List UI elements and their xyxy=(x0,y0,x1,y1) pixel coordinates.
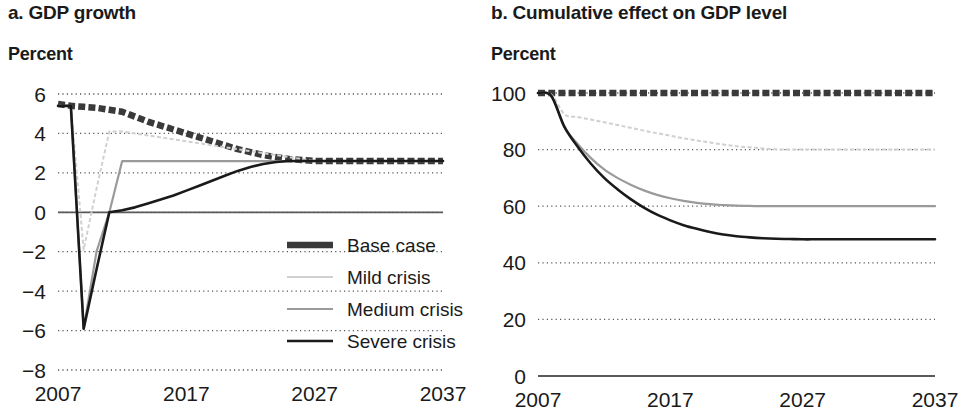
x-axis-tick-label: 2017 xyxy=(647,388,694,411)
x-axis-tick-label: 2027 xyxy=(779,388,826,411)
legend-label: Severe crisis xyxy=(347,331,456,352)
panel-gdp-growth: a. GDP growth Percent 6420−2−4−6−8200720… xyxy=(0,0,483,417)
y-axis-tick-label: 20 xyxy=(503,308,526,331)
panel-b-plot: 1008060402002007201720272037 xyxy=(483,0,967,417)
legend-label: Medium crisis xyxy=(347,299,463,320)
y-axis-tick-label: −6 xyxy=(22,319,46,342)
x-axis-tick-label: 2007 xyxy=(35,382,82,405)
y-axis-tick-label: 0 xyxy=(34,201,46,224)
y-axis-tick-label: 2 xyxy=(34,161,46,184)
legend-item-mild-crisis: Mild crisis xyxy=(287,267,430,288)
y-axis-tick-label: 4 xyxy=(34,122,46,145)
panel-cumulative-gdp-level: b. Cumulative effect on GDP level Percen… xyxy=(483,0,967,417)
legend-item-medium-crisis: Medium crisis xyxy=(287,299,463,320)
x-axis-tick-label: 2007 xyxy=(515,388,562,411)
two-panel-line-chart-figure: a. GDP growth Percent 6420−2−4−6−8200720… xyxy=(0,0,967,417)
legend-item-severe-crisis: Severe crisis xyxy=(287,331,456,352)
y-axis-tick-label: −4 xyxy=(22,280,46,303)
y-axis-tick-label: 80 xyxy=(503,138,526,161)
legend-item-base-case: Base case xyxy=(287,235,436,256)
legend-label: Mild crisis xyxy=(347,267,430,288)
y-axis-tick-label: 60 xyxy=(503,195,526,218)
x-axis-tick-label: 2037 xyxy=(420,382,467,405)
series-line-medium-crisis xyxy=(58,106,443,329)
y-axis-tick-label: 6 xyxy=(34,83,46,106)
y-axis-tick-label: 0 xyxy=(514,365,526,388)
y-axis-tick-label: 100 xyxy=(491,82,526,105)
x-axis-tick-label: 2017 xyxy=(163,382,210,405)
panel-a-plot: 6420−2−4−6−82007201720272037Base caseMil… xyxy=(0,0,483,417)
legend-label: Base case xyxy=(347,235,436,256)
y-axis-tick-label: −2 xyxy=(22,240,46,263)
series-line-mild-crisis xyxy=(58,106,443,250)
y-axis-tick-label: 40 xyxy=(503,251,526,274)
x-axis-tick-label: 2027 xyxy=(291,382,338,405)
series-line-severe-crisis xyxy=(58,106,443,329)
series-line-mild-crisis xyxy=(538,92,935,149)
series-line-severe-crisis xyxy=(538,92,935,239)
y-axis-tick-label: −8 xyxy=(22,359,46,382)
x-axis-tick-label: 2037 xyxy=(912,388,959,411)
